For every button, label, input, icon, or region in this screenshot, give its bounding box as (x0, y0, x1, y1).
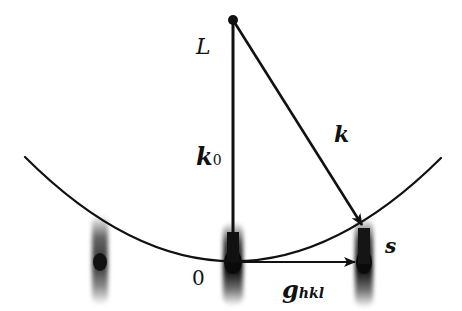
ewald-diagram: L k0 k s 0 ghkl (0, 0, 462, 311)
lattice-spot-left (92, 215, 108, 305)
label-L: L (196, 36, 211, 58)
label-s: s (385, 236, 396, 256)
label-g-hkl: ghkl (282, 278, 324, 302)
l-point (228, 15, 238, 25)
label-k: k (334, 123, 349, 145)
label-origin: 0 (192, 268, 205, 288)
label-k0: k0 (196, 145, 222, 169)
label-k0-subscript: 0 (213, 152, 222, 168)
diagram-canvas (0, 0, 462, 311)
label-g-main: g (282, 275, 299, 304)
lattice-spot-s (355, 218, 373, 308)
label-k0-main: k (196, 142, 213, 171)
label-g-subscript: hkl (299, 285, 324, 301)
